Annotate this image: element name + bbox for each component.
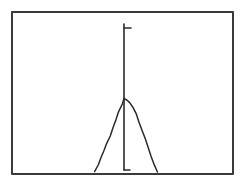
bell-curve-figure	[0, 0, 244, 189]
figure-background	[0, 0, 244, 189]
figure-container	[0, 0, 244, 189]
